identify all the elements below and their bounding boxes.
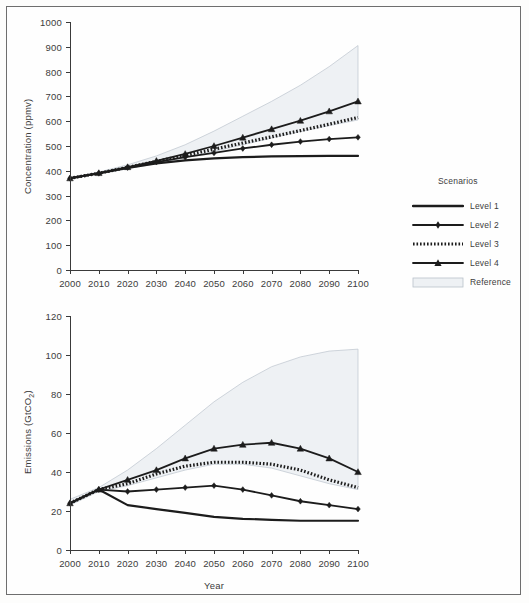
x-tick-mark [272,270,273,274]
y-tick-mark [66,511,70,512]
y-tick-mark [66,146,70,147]
x-tick-mark [214,270,215,274]
y-axis-line [70,22,71,270]
x-tick-mark [70,550,71,554]
y-tick-label: 500 [46,141,62,152]
x-tick-mark [329,550,330,554]
emissions-plot-svg [70,316,358,550]
x-tick-label: 2100 [347,278,369,289]
y-axis-ticks-concentration: 01002003004005006007008009001000 [8,22,70,270]
y-tick-label: 400 [46,165,62,176]
legend-item-label: Level 2 [470,220,499,230]
x-tick-label: 2000 [59,278,81,289]
y-tick-label: 60 [51,428,62,439]
x-axis-title: Year [204,580,224,591]
x-tick-mark [214,550,215,554]
x-tick-label: 2040 [174,278,196,289]
legend-item-level-1[interactable]: Level 1 [412,196,517,215]
y-tick-mark [66,355,70,356]
y-axis-ticks-emissions: 020406080100120 [8,316,70,550]
y-tick-mark [66,394,70,395]
x-tick-mark [358,550,359,554]
y-tick-label: 100 [46,240,62,251]
y-tick-label: 700 [46,91,62,102]
x-tick-mark [185,550,186,554]
x-tick-label: 2010 [88,558,110,569]
legend-item-label: Level 3 [470,239,499,249]
x-tick-mark [300,550,301,554]
y-tick-mark [66,47,70,48]
legend-item-level-4[interactable]: Level 4 [412,253,517,272]
x-tick-mark [99,550,100,554]
x-tick-label: 2070 [261,278,283,289]
legend-key-solid-triangle-icon [412,256,464,270]
y-tick-mark [66,196,70,197]
y-tick-mark [66,22,70,23]
figure-container: 01002003004005006007008009001000 Concent… [8,8,519,593]
y-tick-label: 100 [46,350,62,361]
y-tick-label: 80 [51,389,62,400]
x-tick-label: 2060 [232,278,254,289]
y-tick-mark [66,316,70,317]
y-tick-label: 1000 [40,17,62,28]
plot-area-emissions [70,316,358,550]
y-axis-title-emissions: Emissions (GtCO2) [22,390,35,474]
x-tick-label: 2080 [290,558,312,569]
y-tick-label: 300 [46,190,62,201]
x-tick-mark [156,270,157,274]
plot-area-concentration [70,22,358,270]
x-tick-mark [358,270,359,274]
legend-key-solid-diamond-icon [412,218,464,232]
y-tick-mark [66,245,70,246]
y-tick-mark [66,472,70,473]
legend-key-shaded-band-icon [412,275,464,289]
y-tick-label: 120 [46,311,62,322]
x-tick-label: 2070 [261,558,283,569]
y-tick-label: 20 [51,506,62,517]
y-tick-label: 600 [46,116,62,127]
legend: Scenarios Level 1Level 2Level 3Level 4Re… [412,176,517,291]
legend-item-level-2[interactable]: Level 2 [412,215,517,234]
y-tick-mark [66,96,70,97]
y-tick-label: 0 [57,545,62,556]
x-tick-label: 2050 [203,558,225,569]
legend-item-reference[interactable]: Reference [412,272,517,291]
y-tick-label: 200 [46,215,62,226]
legend-key-dotted-thick-icon [412,237,464,251]
y-tick-label: 900 [46,41,62,52]
y-axis-title-concentration: Concentration (ppmv) [22,99,33,194]
x-tick-label: 2030 [146,558,168,569]
x-tick-mark [185,270,186,274]
y-tick-mark [66,121,70,122]
x-tick-mark [243,550,244,554]
x-tick-label: 2090 [318,558,340,569]
concentration-plot-svg [70,22,358,270]
chart-emissions: 020406080100120 Emissions (GtCO2) 200020… [8,308,408,593]
x-tick-mark [128,550,129,554]
x-tick-label: 2010 [88,278,110,289]
x-tick-label: 2000 [59,558,81,569]
legend-item-label: Level 4 [470,258,499,268]
figure-page: 01002003004005006007008009001000 Concent… [0,0,529,603]
x-tick-label: 2090 [318,278,340,289]
x-tick-mark [128,270,129,274]
legend-items: Level 1Level 2Level 3Level 4Reference [412,196,517,291]
y-tick-mark [66,433,70,434]
x-tick-mark [243,270,244,274]
x-tick-label: 2060 [232,558,254,569]
x-tick-label: 2050 [203,278,225,289]
x-tick-mark [329,270,330,274]
x-tick-mark [156,550,157,554]
legend-key-solid-thick-icon [412,199,464,213]
y-tick-label: 0 [57,265,62,276]
x-tick-label: 2040 [174,558,196,569]
x-tick-mark [272,550,273,554]
y-tick-mark [66,220,70,221]
y-tick-label: 800 [46,66,62,77]
legend-item-label: Reference [470,277,511,287]
x-tick-label: 2080 [290,278,312,289]
x-tick-mark [70,270,71,274]
legend-item-level-3[interactable]: Level 3 [412,234,517,253]
x-tick-mark [300,270,301,274]
x-tick-mark [99,270,100,274]
